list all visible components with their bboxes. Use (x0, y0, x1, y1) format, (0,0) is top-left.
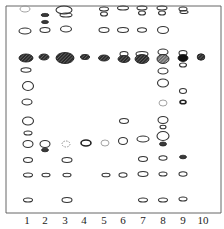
spot-lane-8 (160, 142, 167, 146)
lane-label-1: 1 (20, 213, 34, 227)
spot-lane-6 (119, 173, 127, 177)
spot-lane-6 (118, 6, 129, 10)
lane-label-2: 2 (38, 213, 52, 227)
spot-lane-6 (118, 28, 129, 33)
spot-lane-8 (159, 100, 167, 106)
lane-label-10: 10 (196, 213, 210, 227)
spot-lane-3 (62, 158, 72, 163)
spot-lane-1 (19, 54, 33, 62)
spot-lane-5 (100, 7, 109, 11)
spot-lane-1 (19, 28, 31, 34)
spot-lane-8 (158, 117, 168, 124)
spot-lane-2 (41, 13, 49, 16)
lane-label-7: 7 (136, 213, 150, 227)
spot-lane-2 (40, 28, 50, 33)
spot-lane-9 (180, 155, 187, 159)
spot-lane-1 (24, 131, 32, 135)
spot-lane-7 (139, 157, 148, 162)
spot-lane-1 (23, 141, 33, 148)
spot-lane-8 (158, 79, 169, 87)
spot-lane-1 (20, 6, 30, 12)
spot-lane-7 (139, 198, 148, 202)
spot-lane-3 (63, 173, 71, 177)
spot-lane-8 (158, 27, 169, 34)
spot-lane-1 (24, 198, 33, 202)
spot-lane-1 (24, 173, 33, 177)
lane-label-8: 8 (156, 213, 170, 227)
spot-lane-9 (180, 100, 186, 104)
spot-lane-7 (138, 28, 147, 32)
spot-lane-8 (157, 6, 167, 10)
spot-lane-6 (118, 56, 130, 63)
spot-lane-5 (102, 173, 110, 177)
spot-lane-5 (101, 12, 108, 16)
spot-lane-3 (62, 141, 70, 147)
spot-lane-10 (197, 54, 205, 60)
spot-lane-2 (42, 173, 50, 177)
lane-label-5: 5 (97, 213, 111, 227)
spot-lane-7 (137, 6, 147, 10)
spot-lane-3 (56, 53, 74, 64)
spot-lane-7 (139, 11, 146, 15)
spot-lane-8 (159, 156, 167, 160)
lane-label-9: 9 (176, 213, 190, 227)
spot-lane-9 (180, 89, 187, 94)
spot-lane-1 (22, 99, 32, 105)
plate-frame (6, 6, 221, 213)
spot-lane-2 (42, 148, 49, 152)
spot-lane-5 (101, 140, 109, 146)
spot-lane-9 (180, 11, 188, 14)
spot-lane-3 (61, 26, 72, 32)
spot-lane-6 (119, 138, 128, 145)
spot-lane-1 (23, 82, 34, 91)
lane-label-6: 6 (116, 213, 130, 227)
spot-lane-1 (21, 68, 31, 72)
spot-lane-1 (23, 117, 34, 125)
spot-lane-4 (81, 55, 90, 60)
spot-lane-7 (137, 136, 149, 142)
spot-layer (19, 6, 205, 203)
spot-lane-7 (135, 55, 149, 64)
spot-lane-8 (158, 68, 168, 74)
spot-lane-8 (157, 55, 169, 64)
spot-lane-5 (99, 55, 110, 61)
spot-lane-6 (120, 119, 129, 124)
spot-lane-9 (180, 63, 187, 67)
spot-lane-7 (138, 172, 148, 177)
tlc-plate (0, 0, 224, 229)
spot-lane-9 (179, 172, 187, 176)
spot-lane-8 (157, 132, 169, 141)
lane-label-3: 3 (58, 213, 72, 227)
spot-lane-3 (62, 198, 72, 203)
spot-lane-5 (99, 28, 109, 33)
spot-lane-8 (159, 172, 167, 176)
spot-lane-8 (160, 125, 166, 129)
spot-lane-2 (40, 141, 50, 148)
spot-lane-8 (159, 198, 168, 202)
spot-lane-4 (81, 140, 91, 146)
spot-lane-2 (42, 20, 49, 23)
spot-lane-9 (179, 197, 187, 201)
spot-lane-1 (24, 158, 33, 163)
spot-lane-8 (159, 11, 166, 15)
spot-lane-2 (39, 54, 49, 60)
lane-label-4: 4 (77, 213, 91, 227)
spot-lane-9 (178, 55, 188, 62)
